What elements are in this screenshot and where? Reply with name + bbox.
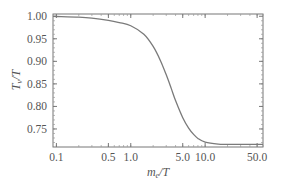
chart: 1.000.950.900.850.800.75 0.10.51.05.010.… bbox=[0, 0, 283, 185]
plot-frame bbox=[53, 14, 263, 147]
x-tick-label: 10.0 bbox=[195, 151, 215, 163]
y-tick-label: 1.00 bbox=[27, 10, 47, 22]
y-tick-label: 0.85 bbox=[27, 78, 47, 90]
y-tick-label: 0.90 bbox=[27, 55, 47, 67]
y-tick-label: 0.75 bbox=[27, 123, 47, 135]
x-tick-label: 0.1 bbox=[49, 151, 64, 163]
x-axis-label: me/T bbox=[147, 165, 171, 180]
y-tick-label: 0.80 bbox=[27, 100, 47, 112]
x-tick-label: 1.0 bbox=[124, 151, 139, 163]
x-tick-label: 0.5 bbox=[101, 151, 116, 163]
y-axis-label: Tν/T bbox=[9, 69, 24, 91]
y-tick-label: 0.95 bbox=[27, 33, 47, 45]
x-tick-label: 50.0 bbox=[247, 151, 267, 163]
x-tick-label: 5.0 bbox=[176, 151, 191, 163]
